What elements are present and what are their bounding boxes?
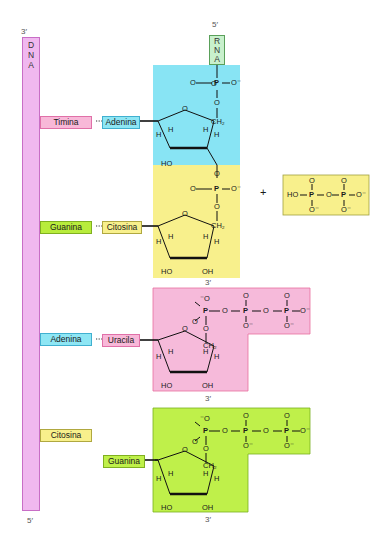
atom-O-minus: O⁻ xyxy=(284,322,294,330)
atom-O: O xyxy=(243,412,249,420)
ring-oxygen: O xyxy=(182,105,188,113)
hydroxyl-HO: HO xyxy=(161,160,172,168)
atom-H: H xyxy=(214,131,219,139)
atom-O: O xyxy=(192,438,198,446)
atom-H: H xyxy=(156,131,161,139)
pyro-P1: P xyxy=(309,191,314,199)
atom-O: O xyxy=(214,170,220,178)
ring-oxygen: O xyxy=(182,210,188,218)
rna-base-guanina: Guanina xyxy=(103,455,145,468)
pyro-O-top1: O xyxy=(309,177,315,185)
atom-P: P xyxy=(203,307,208,315)
atom-P: P xyxy=(214,79,219,87)
atom-O-minus: O⁻ xyxy=(284,442,294,450)
plus-sign: + xyxy=(260,188,266,196)
atom-P: P xyxy=(243,307,248,315)
dna-base-guanina: Guanina xyxy=(40,221,92,234)
ring-oxygen: O xyxy=(182,325,188,333)
dna-base-citosina: Citosina xyxy=(40,429,92,442)
atom-H: H xyxy=(203,348,208,356)
atom-H: H xyxy=(168,470,173,478)
ring-oxygen: O xyxy=(182,446,188,454)
atom-H: H xyxy=(203,233,208,241)
atom-P: P xyxy=(284,427,289,435)
atom-P: P xyxy=(284,307,289,315)
atom-O-minus: ⁻O xyxy=(200,295,210,303)
pyro-O-top2: O xyxy=(341,177,347,185)
atom-H: H xyxy=(214,238,219,246)
atom-O-minus: O⁻ xyxy=(243,442,253,450)
atom-O: O xyxy=(214,99,220,107)
atom-O: O xyxy=(284,292,290,300)
pyro-O-minus-bottom1: O⁻ xyxy=(309,206,319,214)
rna-base-citosina: Citosina xyxy=(102,221,142,234)
atom-O-minus: ⁻O xyxy=(200,415,210,423)
rna-base-adenina: Adenina xyxy=(102,116,140,129)
atom-O-minus: O⁻ xyxy=(243,322,253,330)
ch2-group: CH₂ xyxy=(211,118,225,126)
dna-base-timina: Timina xyxy=(40,116,92,129)
dna-base-adenina: Adenina xyxy=(40,333,92,346)
block2-3prime-label: 3′ xyxy=(205,279,211,287)
atom-O-minus: O⁻ xyxy=(300,427,310,435)
pyro-O-bridge: O xyxy=(326,191,332,199)
atom-H: H xyxy=(214,475,219,483)
atom-O-minus: O⁻ xyxy=(231,185,241,193)
atom-H: H xyxy=(168,126,173,134)
atom-O: O xyxy=(203,445,209,453)
atom-O: O xyxy=(222,307,228,315)
atom-O: O xyxy=(284,412,290,420)
hydroxyl-HO: HO xyxy=(161,382,172,390)
hydroxyl-OH: OH xyxy=(202,268,213,276)
hydroxyl-OH: OH xyxy=(202,382,213,390)
pyro-HO: HO xyxy=(287,191,298,199)
atom-P: P xyxy=(203,427,208,435)
atom-O: O xyxy=(263,307,269,315)
atom-H: H xyxy=(168,348,173,356)
chem-labels: O P O⁻ O CH₂ O H H H H HO O O P O⁻ O CH₂… xyxy=(0,0,391,547)
atom-H: H xyxy=(168,233,173,241)
atom-H: H xyxy=(214,353,219,361)
atom-P: P xyxy=(243,427,248,435)
hydroxyl-HO: HO xyxy=(161,268,172,276)
hydroxyl-OH: OH xyxy=(202,504,213,512)
atom-H: H xyxy=(203,126,208,134)
atom-O: O xyxy=(190,185,196,193)
pyro-O-minus: O⁻ xyxy=(356,191,366,199)
atom-O: O xyxy=(203,325,209,333)
atom-O-minus: O⁻ xyxy=(231,79,241,87)
pyro-O-minus-bottom2: O⁻ xyxy=(341,206,351,214)
pyro-P2: P xyxy=(341,191,346,199)
atom-O: O xyxy=(214,203,220,211)
atom-H: H xyxy=(203,470,208,478)
block4-3prime-label: 3′ xyxy=(205,516,211,524)
atom-O: O xyxy=(190,79,196,87)
atom-O: O xyxy=(263,427,269,435)
atom-H: H xyxy=(156,475,161,483)
atom-O: O xyxy=(192,318,198,326)
hydroxyl-HO: HO xyxy=(161,504,172,512)
atom-O-minus: O⁻ xyxy=(300,307,310,315)
atom-O: O xyxy=(243,292,249,300)
atom-O: O xyxy=(222,427,228,435)
atom-H: H xyxy=(156,238,161,246)
block3-3prime-label: 3′ xyxy=(205,395,211,403)
ch2-group: CH₂ xyxy=(211,222,225,230)
atom-P: P xyxy=(214,185,219,193)
rna-base-uracila: Uracila xyxy=(102,334,140,347)
atom-H: H xyxy=(156,353,161,361)
